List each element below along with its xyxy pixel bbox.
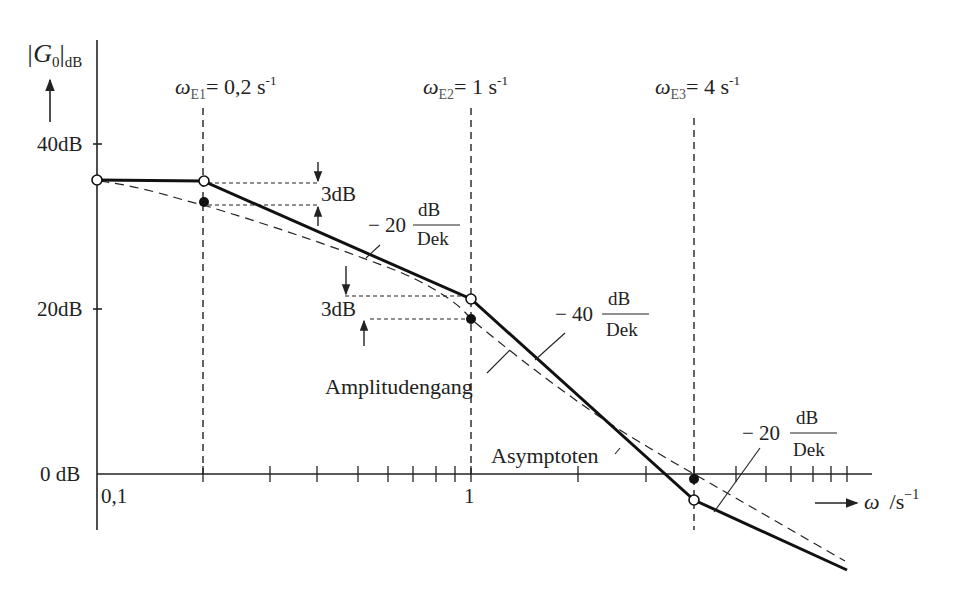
- amplitudengang-label: Amplitudengang: [325, 374, 473, 399]
- y-tick-20db: 20dB: [37, 297, 83, 321]
- x-tick-0-1: 0,1: [101, 484, 127, 508]
- svg-text:dB: dB: [418, 199, 440, 220]
- x-tick-1: 1: [464, 484, 475, 508]
- svg-text:− 40: − 40: [555, 302, 593, 326]
- svg-text:Dek: Dek: [417, 228, 449, 249]
- svg-text:Dek: Dek: [793, 439, 825, 460]
- bode-magnitude-plot: |G0|dB 40dB 20dB 0 dB 0,1 1 ω/s−1 ωE1= 0…: [0, 0, 961, 593]
- corner-label-e2: ωE2= 1 s-1: [423, 73, 508, 102]
- svg-text:dB: dB: [608, 288, 630, 309]
- 3db-label-e1: 3dB: [321, 182, 356, 206]
- y-tick-40db: 40dB: [37, 132, 83, 156]
- axes: [93, 40, 872, 530]
- slope-label-2: − 40 dB Dek: [555, 288, 649, 340]
- svg-text:− 20: − 20: [742, 421, 780, 445]
- svg-text:dB: dB: [796, 407, 818, 428]
- 3db-label-e2: 3dB: [321, 297, 356, 321]
- y-tick-0db: 0 dB: [40, 462, 80, 486]
- slope-label-1: − 20 dB Dek: [368, 199, 460, 249]
- svg-text:Dek: Dek: [606, 319, 638, 340]
- corner-label-e1: ωE1= 0,2 s-1: [175, 73, 276, 102]
- x-axis-label: ω/s−1: [864, 487, 919, 514]
- asymptoten-label: Asymptoten: [491, 443, 599, 468]
- corner-label-e3: ωE3= 4 s-1: [655, 73, 740, 102]
- svg-text:− 20: − 20: [368, 213, 406, 237]
- slope-label-3: − 20 dB Dek: [742, 407, 837, 460]
- y-axis-label: |G0|dB: [26, 39, 82, 70]
- filled-markers: [199, 197, 699, 484]
